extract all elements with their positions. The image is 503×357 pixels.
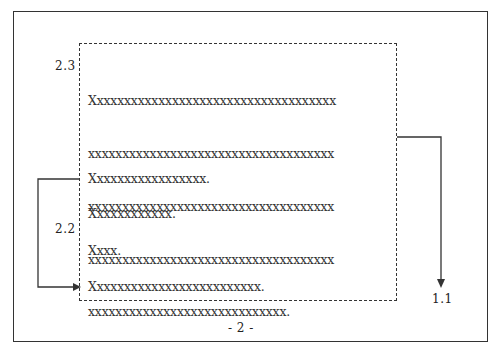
paragraph-1-line-2: xxxxxxxxxxxxxxxxxxxxxxxxxxxxxxxxxxxx — [88, 145, 336, 163]
paragraph-2: Xxxxxxxxxxxxxxxxx. — [88, 170, 210, 188]
paragraph-1-line-5: xxxxxxxxxxxxxxxxxxxxxxxxxxxxx. — [88, 303, 336, 321]
label-section-2-3: 2.3 — [55, 59, 76, 73]
paragraph-5: Xxxxxxxxxxxxxxxxxxxxxxxxx. — [88, 278, 265, 296]
arrowhead-down-icon — [437, 279, 445, 288]
paragraph-1: Xxxxxxxxxxxxxxxxxxxxxxxxxxxxxxxxxxxx xxx… — [88, 57, 336, 339]
paragraph-4: Xxxx. — [88, 242, 121, 260]
paragraph-1-line-4: xxxxxxxxxxxxxxxxxxxxxxxxxxxxxxxxxxxx — [88, 251, 336, 269]
label-section-2-2: 2.2 — [55, 222, 76, 236]
connector-to-1-1 — [397, 137, 441, 280]
arrowhead-right-icon — [73, 283, 81, 291]
paragraph-1-line-1: Xxxxxxxxxxxxxxxxxxxxxxxxxxxxxxxxxxxx — [88, 92, 336, 110]
paragraph-3: Xxxxxxxxxxxx. — [88, 205, 176, 223]
label-section-1-1: 1.1 — [432, 292, 453, 306]
